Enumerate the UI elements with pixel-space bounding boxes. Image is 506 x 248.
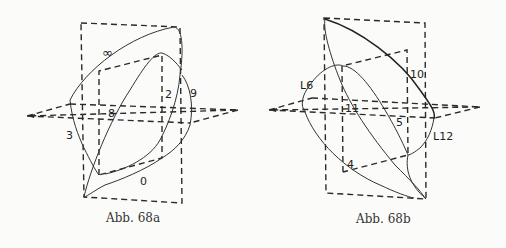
diagram-drawing	[0, 0, 506, 248]
label-l6: L6	[300, 80, 313, 91]
curve-9-0	[84, 75, 192, 197]
horizontal-plane-edge	[435, 107, 480, 118]
figure-68b	[269, 18, 480, 199]
horizontal-plane-edge	[269, 98, 312, 110]
label-3: 3	[66, 130, 73, 141]
diagram-stage: ∞ 2 9 8 3 0 Abb. 68a L6 10 11 5 L12 4 Ab…	[0, 0, 506, 248]
label-8: 8	[108, 108, 115, 119]
label-9: 9	[190, 88, 197, 99]
label-4: 4	[347, 159, 354, 170]
horizontal-plane-edge	[190, 110, 238, 123]
label-11: 11	[345, 103, 359, 114]
figure-68a	[27, 23, 238, 203]
caption-68a: Abb. 68a	[106, 212, 160, 224]
label-infinity: ∞	[102, 46, 113, 59]
label-5: 5	[396, 117, 403, 128]
label-l12: L12	[433, 131, 453, 142]
curve-l12	[407, 118, 434, 199]
horizontal-plane-edge	[27, 104, 70, 116]
caption-68b: Abb. 68b	[356, 213, 411, 225]
label-10: 10	[410, 69, 424, 80]
label-2: 2	[165, 89, 172, 100]
label-0: 0	[140, 176, 147, 187]
